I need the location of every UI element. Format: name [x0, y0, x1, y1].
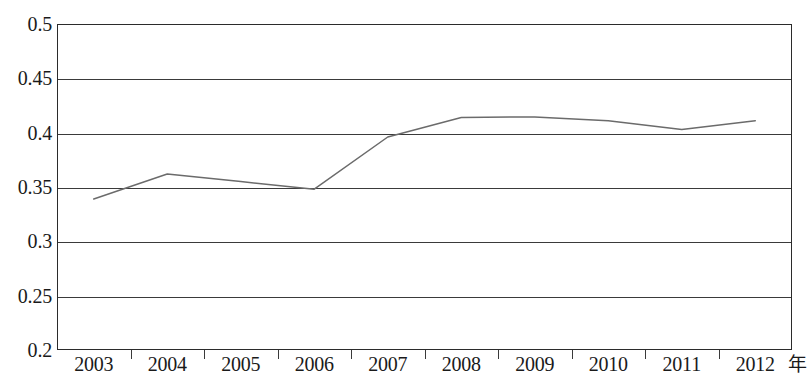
y-axis-tick-label: 0.45 [0, 68, 52, 88]
line-chart: 0.50.450.40.350.30.250.2 200320042005200… [0, 0, 811, 375]
y-axis-tick-label: 0.5 [0, 14, 52, 34]
x-axis-tick-label: 2012 [710, 353, 800, 375]
y-axis-tick-label: 0.3 [0, 231, 52, 251]
y-axis-tick-label: 0.35 [0, 177, 52, 197]
gridline [58, 79, 791, 80]
y-axis-tick-label: 0.4 [0, 123, 52, 143]
gridline [58, 188, 791, 189]
gridline [58, 134, 791, 135]
y-axis-tick-label: 0.25 [0, 286, 52, 306]
x-axis-unit-label: 年 [788, 353, 807, 375]
gridline [58, 242, 791, 243]
y-axis: 0.50.450.40.350.30.250.2 [0, 0, 52, 375]
gridline [58, 297, 791, 298]
y-axis-tick-label: 0.2 [0, 340, 52, 360]
plot-area [57, 24, 792, 350]
